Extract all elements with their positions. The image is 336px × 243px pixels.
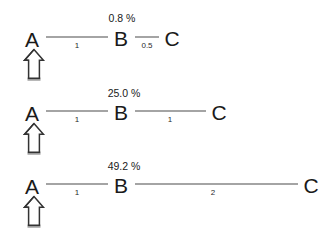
graph-edge (46, 111, 108, 112)
edge-weight-label: 1 (168, 116, 172, 124)
percentage-label: 25.0 % (108, 88, 141, 99)
up-arrow-icon (21, 195, 47, 229)
graph-node: C (211, 102, 226, 123)
diagram-canvas: 0.8 %10.5ABC25.0 %11ABC49.2 %12ABC (0, 0, 336, 243)
graph-row: 49.2 %12ABC (0, 0, 336, 81)
graph-node: B (114, 175, 128, 196)
edge-weight-label: 1 (75, 189, 79, 197)
graph-edge (46, 184, 108, 185)
graph-node: B (114, 102, 128, 123)
graph-edge (135, 184, 298, 185)
graph-node: C (303, 175, 318, 196)
graph-edge (135, 111, 206, 112)
graph-node: A (25, 176, 39, 197)
edge-weight-label: 1 (75, 116, 79, 124)
percentage-label: 49.2 % (108, 161, 141, 172)
up-arrow-icon (21, 122, 47, 156)
up-arrow-icon (21, 48, 47, 82)
graph-node: A (25, 103, 39, 124)
edge-weight-label: 2 (211, 189, 215, 197)
